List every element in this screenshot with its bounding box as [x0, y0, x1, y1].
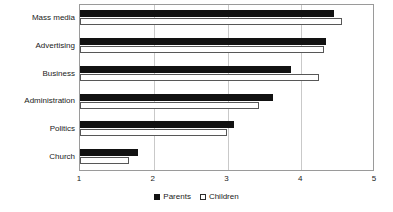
- bar-children: [80, 46, 324, 53]
- bar-parents: [80, 94, 273, 101]
- x-tick-label: 4: [288, 174, 312, 183]
- bar-parents: [80, 149, 138, 156]
- category-label: Mass media: [0, 13, 75, 23]
- filled-square-icon: [154, 194, 160, 200]
- bar-children: [80, 74, 319, 81]
- chart-legend: ParentsChildren: [0, 192, 393, 201]
- x-tick-label: 5: [362, 174, 386, 183]
- bar-group: [80, 89, 373, 117]
- plot-area: [79, 4, 374, 171]
- category-label: Advertising: [0, 41, 75, 51]
- bar-parents: [80, 10, 334, 17]
- legend-label: Parents: [163, 192, 191, 201]
- x-tick-label: 1: [67, 174, 91, 183]
- bar-group: [80, 5, 373, 33]
- bar-children: [80, 102, 259, 109]
- bar-chart: Mass mediaAdvertisingBusinessAdministrat…: [0, 0, 393, 212]
- x-tick-label: 3: [215, 174, 239, 183]
- bar-group: [80, 144, 373, 172]
- category-label: Politics: [0, 124, 75, 134]
- bar-parents: [80, 38, 326, 45]
- legend-item-children: Children: [200, 192, 239, 201]
- bar-children: [80, 129, 227, 136]
- bar-group: [80, 33, 373, 61]
- category-label: Business: [0, 69, 75, 79]
- legend-label: Children: [209, 192, 239, 201]
- legend-item-parents: Parents: [154, 192, 191, 201]
- bar-parents: [80, 121, 234, 128]
- bar-parents: [80, 66, 291, 73]
- x-tick-label: 2: [141, 174, 165, 183]
- category-label: Administration: [0, 96, 75, 106]
- bar-group: [80, 61, 373, 89]
- bar-group: [80, 116, 373, 144]
- bar-children: [80, 157, 129, 164]
- outlined-square-icon: [200, 194, 206, 200]
- category-label: Church: [0, 152, 75, 162]
- bar-children: [80, 18, 342, 25]
